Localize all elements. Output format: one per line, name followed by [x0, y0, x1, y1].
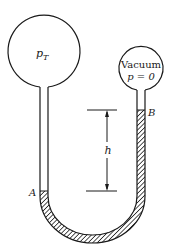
left-bulb — [8, 15, 80, 87]
tube-inner-wall — [48, 87, 137, 235]
arrow-down-icon — [105, 184, 109, 191]
vacuum-label: Vacuum — [120, 59, 162, 70]
manometer-fluid — [40, 110, 145, 243]
manometer-diagram: pT Vacuum p = 0 B A h — [0, 0, 177, 248]
arrow-up-icon — [105, 110, 109, 117]
height-label: h — [104, 144, 111, 157]
point-b-label: B — [147, 107, 155, 118]
left-bulb-pressure-label: pT — [36, 47, 49, 62]
vacuum-pressure-label: p = 0 — [127, 71, 155, 82]
point-a-label: A — [28, 187, 36, 198]
